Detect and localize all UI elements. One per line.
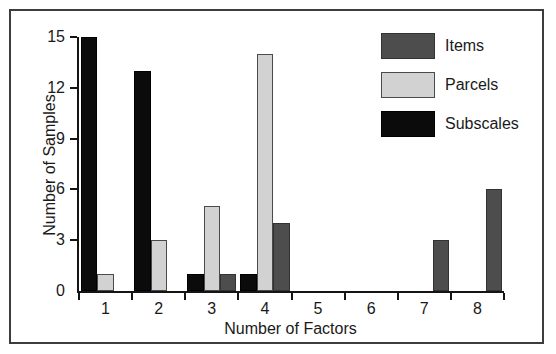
bar-subscales-factor-2 [134,71,150,291]
x-axis-tick-0 [78,293,80,300]
x-tick-label-8: 8 [451,300,504,318]
x-tick-label-6: 6 [345,300,398,318]
y-tick-label-6: 6 [29,180,65,198]
x-axis-tick-7 [450,293,452,300]
y-axis-tick-15 [70,36,77,38]
x-tick-label-7: 7 [398,300,451,318]
x-tick-label-2: 2 [132,300,185,318]
x-axis-title: Number of Factors [77,320,504,338]
bar-items-factor-7 [433,240,449,291]
bar-parcels-factor-1 [97,274,113,291]
legend-label-items: Items [445,37,484,55]
bar-items-factor-3 [220,274,236,291]
x-tick-label-4: 4 [238,300,291,318]
bar-items-factor-8 [486,189,502,291]
legend-entry-items: Items [381,33,519,59]
legend-entry-subscales: Subscales [381,111,519,137]
x-tick-label-5: 5 [292,300,345,318]
legend-swatch-parcels [381,72,435,98]
x-axis-tick-3 [237,293,239,300]
y-tick-label-0: 0 [29,282,65,300]
y-tick-label-15: 15 [29,28,65,46]
figure-page: Number of Samples 0369121512345678 Numbe… [0,0,556,354]
x-axis-tick-5 [344,293,346,300]
bar-parcels-factor-3 [204,206,220,291]
x-axis-tick-8 [503,293,505,300]
x-tick-label-3: 3 [185,300,238,318]
bar-parcels-factor-2 [151,240,167,291]
y-axis-tick-12 [70,87,77,89]
legend: ItemsParcelsSubscales [381,33,519,150]
x-axis-tick-4 [291,293,293,300]
y-axis-tick-3 [70,239,77,241]
legend-entry-parcels: Parcels [381,72,519,98]
y-tick-label-12: 12 [29,79,65,97]
legend-label-subscales: Subscales [445,115,519,133]
x-axis-tick-2 [184,293,186,300]
bar-parcels-factor-4 [257,54,273,291]
y-axis-title: Number of Samples [41,94,59,235]
bar-subscales-factor-4 [240,274,256,291]
x-axis-tick-6 [397,293,399,300]
y-tick-label-9: 9 [29,130,65,148]
legend-swatch-items [381,33,435,59]
y-tick-label-3: 3 [29,231,65,249]
bar-subscales-factor-1 [81,37,97,291]
y-axis-tick-6 [70,188,77,190]
y-axis-tick-9 [70,138,77,140]
x-tick-label-1: 1 [79,300,132,318]
legend-label-parcels: Parcels [445,76,498,94]
bar-items-factor-4 [273,223,289,291]
bar-subscales-factor-3 [187,274,203,291]
legend-swatch-subscales [381,111,435,137]
x-axis-tick-1 [131,293,133,300]
